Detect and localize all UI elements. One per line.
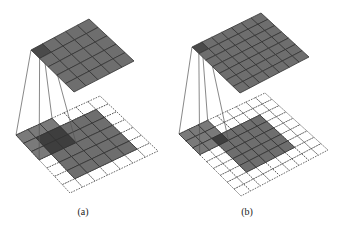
panel-b-padding-convolution <box>179 13 328 196</box>
panel-a-padding-convolution <box>16 19 158 193</box>
caption-b: (b) <box>241 206 253 217</box>
convolution-diagram <box>0 0 340 228</box>
caption-a: (a) <box>77 206 88 217</box>
projection-line <box>16 50 31 135</box>
projection-line <box>179 47 192 134</box>
